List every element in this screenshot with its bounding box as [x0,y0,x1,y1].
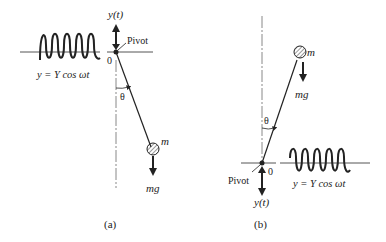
caption-a: (a) [104,218,117,231]
angle-label: θ [120,91,125,102]
displacement-label: y(t) [107,8,124,21]
mass-label: m [307,46,315,58]
pivot-point [260,161,265,166]
equation-label: y = Y cos ωt [292,178,346,189]
displacement-label: y(t) [253,196,270,209]
origin-label: 0 [268,166,273,177]
arrow-up-icon [112,24,120,32]
figure-a: y(t) Pivot 0 θ m mg y = Y cos ωt (a) [20,8,169,231]
arrow-down-icon [258,188,266,196]
mass-bob [294,46,306,58]
arrow-down-icon [149,168,157,176]
pivot-leader [252,165,260,172]
angle-arc [262,128,275,129]
angle-arc [116,87,129,88]
pivot-label: Pivot [228,175,249,186]
wave-icon [290,149,350,172]
origin-label: 0 [107,55,112,66]
force-label: mg [146,182,160,194]
arrow-down-icon [299,74,307,82]
mass-label: m [161,135,169,147]
figure-b: m mg θ 0 Pivot y(t) y = Y cos ωt (b) [228,16,370,231]
angle-label: θ [264,115,269,126]
force-label: mg [295,88,309,100]
equation-label: y = Y cos ωt [36,69,90,80]
wave-icon [40,34,100,60]
pivot-label: Pivot [127,35,148,46]
mass-bob [147,143,159,155]
caption-b: (b) [254,218,267,231]
pendulum-rod [262,60,297,163]
arrow-up-icon [258,166,266,173]
pendulum-diagram: y(t) Pivot 0 θ m mg y = Y cos ωt (a) m [0,0,386,242]
